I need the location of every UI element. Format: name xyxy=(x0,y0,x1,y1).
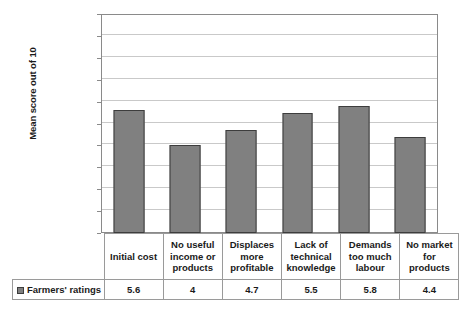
value-cell: 5.6 xyxy=(104,280,163,300)
bar-slot xyxy=(157,14,213,233)
data-table: Initial costNo usefulincome orproductsDi… xyxy=(12,233,459,300)
category-label-line: knowledge xyxy=(283,262,339,274)
value-cell: 4.7 xyxy=(222,280,281,300)
value-cell: 4.4 xyxy=(400,280,459,300)
bar[interactable] xyxy=(394,137,425,233)
category-label-cell: Initial cost xyxy=(104,234,163,280)
category-label-line: Initial cost xyxy=(106,251,162,263)
bar[interactable] xyxy=(226,130,257,233)
table-row-categories: Initial costNo usefulincome orproductsDi… xyxy=(13,234,459,280)
legend-entry: Farmers' ratings xyxy=(13,280,105,300)
table-corner-blank xyxy=(13,234,105,280)
category-label-cell: Displacesmoreprofitable xyxy=(222,234,281,280)
category-label-line: No market xyxy=(401,239,457,251)
bar-slot xyxy=(382,14,438,233)
data-table-wrapper: Initial costNo usefulincome orproductsDi… xyxy=(12,233,438,299)
bar[interactable] xyxy=(170,145,201,233)
bar-slot xyxy=(213,14,269,233)
category-label-line: Lack of xyxy=(283,239,339,251)
bar[interactable] xyxy=(282,113,313,233)
category-label-cell: No usefulincome orproducts xyxy=(163,234,222,280)
category-label-line: profitable xyxy=(224,262,280,274)
category-label-line: too much xyxy=(342,251,398,263)
category-label-line: technical xyxy=(283,251,339,263)
bar[interactable] xyxy=(338,106,369,233)
category-label-cell: Demandstoo muchlabour xyxy=(341,234,400,280)
category-label-line: products xyxy=(165,262,221,274)
category-label-line: more xyxy=(224,251,280,263)
category-label-cell: No marketforproducts xyxy=(400,234,459,280)
bar-slot xyxy=(270,14,326,233)
category-label-line: Displaces xyxy=(224,239,280,251)
category-label-line: Demands xyxy=(342,239,398,251)
category-label-line: labour xyxy=(342,262,398,274)
bar-slot xyxy=(101,14,157,233)
category-label-line: for xyxy=(401,251,457,263)
category-label-line: No useful xyxy=(165,239,221,251)
bar[interactable] xyxy=(114,110,145,233)
y-axis-title: Mean score out of 10 xyxy=(27,14,38,174)
legend-label: Farmers' ratings xyxy=(27,284,101,295)
value-cell: 4 xyxy=(163,280,222,300)
table-row-values: Farmers' ratings 5.644.75.55.84.4 xyxy=(13,280,459,300)
bar-slot xyxy=(326,14,382,233)
category-label-line: income or xyxy=(165,251,221,263)
value-cell: 5.8 xyxy=(341,280,400,300)
category-label-line: products xyxy=(401,262,457,274)
category-label-cell: Lack oftechnicalknowledge xyxy=(281,234,340,280)
square-swatch-icon xyxy=(17,287,24,294)
value-cell: 5.5 xyxy=(281,280,340,300)
bars-group xyxy=(101,14,438,233)
